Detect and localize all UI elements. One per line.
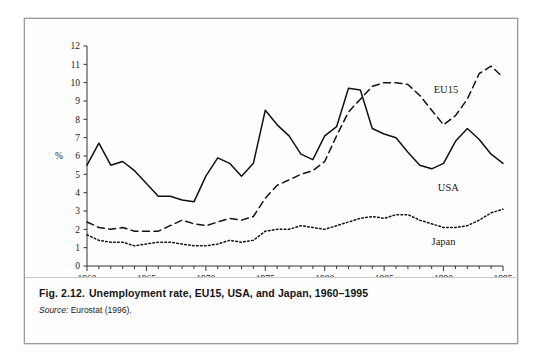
y-axis-tick-label: 2 (75, 225, 80, 235)
y-axis-tick-label: 5 (75, 170, 80, 180)
series-label-japan: Japan (432, 236, 457, 247)
y-axis-tick-label: 6 (75, 151, 80, 161)
chart-plot-area: 0123456789101112%19601965197019751980198… (25, 19, 519, 277)
figure-caption-block: Fig. 2.12.Unemployment rate, EU15, USA, … (25, 277, 519, 345)
series-label-usa: USA (438, 182, 459, 193)
unemployment-line-chart: 0123456789101112%19601965197019751980198… (25, 19, 519, 277)
source-text: Eurostat (1996). (68, 305, 131, 315)
figure-number: Fig. 2.12. (39, 287, 85, 299)
y-axis-tick-label: 11 (71, 60, 80, 70)
y-axis-title: % (55, 151, 63, 161)
y-axis-tick-label: 3 (75, 206, 80, 216)
series-label-eu15: EU15 (434, 84, 459, 95)
figure-caption-text: Unemployment rate, EU15, USA, and Japan,… (89, 287, 368, 299)
y-axis-tick-label: 10 (71, 78, 81, 88)
y-axis-tick-label: 7 (75, 133, 80, 143)
source-label: Source: (39, 305, 68, 315)
y-axis-tick-label: 0 (75, 261, 80, 271)
caption-divider (25, 277, 519, 278)
y-axis-tick-label: 12 (71, 41, 81, 51)
y-axis-tick-label: 8 (75, 115, 80, 125)
y-axis-tick-label: 1 (75, 243, 80, 253)
figure-container: 0123456789101112%19601965197019751980198… (24, 18, 518, 344)
figure-source: Source: Eurostat (1996). (39, 305, 505, 316)
y-axis-tick-label: 4 (75, 188, 80, 198)
figure-caption: Fig. 2.12.Unemployment rate, EU15, USA, … (39, 287, 505, 301)
y-axis-tick-label: 9 (75, 96, 80, 106)
